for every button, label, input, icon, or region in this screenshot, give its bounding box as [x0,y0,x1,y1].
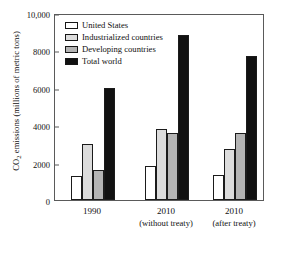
y-axis-tick-label: 2000 [33,160,55,169]
bar [178,35,189,200]
legend-swatch-icon [65,46,78,53]
y-axis-tick-label: 6000 [33,86,55,95]
legend-label: Developing countries [82,45,156,54]
chart-legend: United StatesIndustrialized countriesDev… [65,20,163,67]
legend-swatch-icon [65,34,78,41]
x-axis-sublabel: (after treaty) [212,217,255,229]
y-axis-tick-label: 0 [46,198,55,207]
y-axis-tick-label: 4000 [33,123,55,132]
x-axis-year: 1990 [83,206,101,217]
y-axis-title-pre: CO [11,159,21,171]
y-axis-tick-mark [55,15,59,16]
co2-emissions-bar-chart: CO2 emissions (millions of metric tons) … [0,0,283,257]
bar [104,88,115,200]
y-axis-tick-label: 10,000 [27,11,55,20]
y-axis-tick-label: 8000 [33,48,55,57]
bar [145,166,156,200]
y-axis-tick-mark [55,52,59,53]
y-axis-tick-mark [55,127,59,128]
bar [156,129,167,200]
bar [235,133,246,200]
bar [71,176,82,200]
y-axis-title-subscript: 2 [15,155,22,158]
legend-label: Industrialized countries [82,33,163,42]
y-axis-tick-mark [55,164,59,165]
x-axis-year: 2010 [139,206,193,217]
plot-area: 0200040006000800010,000 United StatesInd… [54,14,264,201]
legend-label: United States [82,21,128,30]
y-axis-tick-mark [55,89,59,90]
x-axis-sublabel: (without treaty) [139,217,193,229]
bar [82,144,93,200]
legend-item: Total world [65,56,163,67]
bar [213,175,224,200]
legend-swatch-icon [65,22,78,29]
legend-item: Industrialized countries [65,32,163,43]
bar [224,149,235,200]
legend-swatch-icon [65,58,78,65]
legend-item: United States [65,20,163,31]
bar [167,133,178,200]
x-axis-group-label: 2010(after treaty) [212,206,255,229]
legend-item: Developing countries [65,44,163,55]
legend-label: Total world [82,57,122,66]
x-axis-year: 2010 [212,206,255,217]
x-axis-group-label: 1990 [83,206,101,217]
bar [93,170,104,200]
bar [246,56,257,200]
y-axis-title: CO2 emissions (millions of metric tons) [11,1,21,201]
x-axis-group-label: 2010(without treaty) [139,206,193,229]
y-axis-title-post: emissions (millions of metric tons) [11,31,21,155]
